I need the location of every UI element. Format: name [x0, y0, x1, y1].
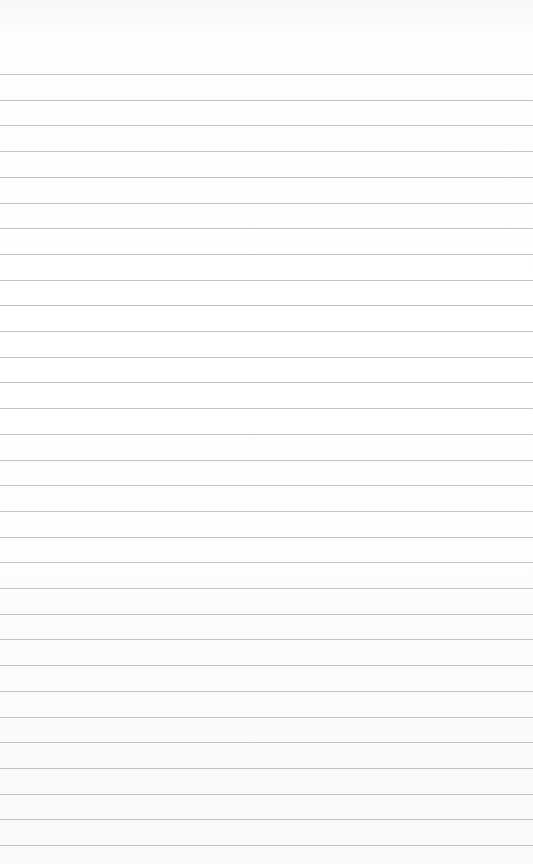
ruled-line — [0, 614, 533, 615]
ruled-line — [0, 228, 533, 229]
ruled-line — [0, 151, 533, 152]
ruled-line — [0, 434, 533, 435]
ruled-line — [0, 331, 533, 332]
ruled-line — [0, 639, 533, 640]
ruled-line — [0, 203, 533, 204]
ruled-line — [0, 177, 533, 178]
ruled-line — [0, 408, 533, 409]
ruled-line — [0, 717, 533, 718]
lined-paper-sheet — [0, 0, 533, 864]
ruled-line — [0, 254, 533, 255]
ruled-line — [0, 511, 533, 512]
ruled-line — [0, 305, 533, 306]
ruled-line — [0, 382, 533, 383]
ruled-line — [0, 537, 533, 538]
ruled-line — [0, 460, 533, 461]
ruled-line — [0, 280, 533, 281]
ruled-line — [0, 357, 533, 358]
ruled-line — [0, 845, 533, 846]
ruled-line — [0, 742, 533, 743]
ruled-line — [0, 485, 533, 486]
ruled-line — [0, 100, 533, 101]
ruled-line — [0, 562, 533, 563]
ruled-line — [0, 125, 533, 126]
ruled-line — [0, 691, 533, 692]
ruled-line — [0, 819, 533, 820]
ruled-line — [0, 665, 533, 666]
ruled-line — [0, 588, 533, 589]
ruled-line — [0, 768, 533, 769]
ruled-line — [0, 74, 533, 75]
ruled-line — [0, 794, 533, 795]
